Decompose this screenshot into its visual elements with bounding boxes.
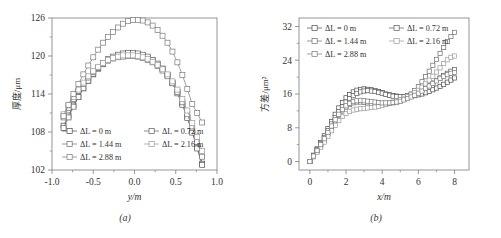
legend-item[interactable]: ΔL = 2.88 m <box>62 153 122 162</box>
x-tick-label: -0.5 <box>86 177 101 187</box>
y-axis-title: 方差/μm² <box>259 76 270 111</box>
legend-item[interactable]: ΔL = 0 m <box>307 24 357 33</box>
y-tick-label: 32 <box>283 22 293 32</box>
caption-a: (a) <box>0 212 250 223</box>
series-3 <box>308 54 457 164</box>
y-tick-label: 8 <box>287 123 292 133</box>
legend-label: ΔL = 0.72 m <box>162 127 204 136</box>
y-tick-label: 0 <box>287 157 292 167</box>
x-tick-label: 1.0 <box>211 177 223 187</box>
legend-label: ΔL = 2.16 m <box>407 37 449 46</box>
legend-label: ΔL = 0 m <box>80 127 112 136</box>
legend-item[interactable]: ΔL = 0.72 m <box>144 127 204 136</box>
panel-a: -1.0-0.50.00.51.0102108114120126y/m厚度/μm… <box>0 0 250 238</box>
x-axis-title: y/m <box>127 192 142 202</box>
y-axis-title: 厚度/μm <box>11 78 22 110</box>
y-tick-label: 108 <box>31 127 46 137</box>
legend-label: ΔL = 0 m <box>325 24 357 33</box>
y-tick-label: 102 <box>31 165 46 175</box>
legend: ΔL = 0 mΔL = 0.72 mΔL = 1.44 mΔL = 2.16 … <box>307 24 449 59</box>
chart-b-svg: 0246808162432x/m方差/μm²ΔL = 0 mΔL = 0.72 … <box>251 0 501 238</box>
x-tick-label: 0.5 <box>170 177 182 187</box>
legend-label: ΔL = 2.16 m <box>162 140 204 149</box>
legend-label: ΔL = 2.88 m <box>80 153 122 162</box>
x-tick-label: 4 <box>380 177 385 187</box>
x-tick-label: 2 <box>344 177 349 187</box>
y-tick-label: 16 <box>283 89 293 99</box>
y-tick-label: 120 <box>31 51 46 61</box>
chart-a-svg: -1.0-0.50.00.51.0102108114120126y/m厚度/μm… <box>0 0 250 238</box>
y-tick-label: 114 <box>31 89 45 99</box>
series-1 <box>61 50 205 167</box>
legend-item[interactable]: ΔL = 2.16 m <box>144 140 204 149</box>
legend: ΔL = 0 mΔL = 0.72 mΔL = 1.44 mΔL = 2.16 … <box>62 127 204 162</box>
series-0 <box>308 76 457 164</box>
x-tick-label: -1.0 <box>44 177 59 187</box>
y-tick-label: 126 <box>31 13 46 23</box>
figure-container: -1.0-0.50.00.51.0102108114120126y/m厚度/μm… <box>0 0 501 238</box>
x-axis-title: x/m <box>376 192 391 202</box>
x-tick-label: 6 <box>416 177 421 187</box>
legend-item[interactable]: ΔL = 1.44 m <box>307 37 367 46</box>
panel-b: 0246808162432x/m方差/μm²ΔL = 0 mΔL = 0.72 … <box>251 0 501 238</box>
legend-label: ΔL = 2.88 m <box>325 50 367 59</box>
x-tick-label: 0.0 <box>129 177 141 187</box>
legend-item[interactable]: ΔL = 0.72 m <box>389 24 449 33</box>
x-tick-label: 0 <box>307 177 312 187</box>
series-4 <box>61 17 205 125</box>
legend-item[interactable]: ΔL = 2.16 m <box>389 37 449 46</box>
legend-label: ΔL = 1.44 m <box>325 37 367 46</box>
y-tick-label: 24 <box>283 56 293 66</box>
legend-item[interactable]: ΔL = 1.44 m <box>62 140 122 149</box>
series-4 <box>308 70 457 163</box>
x-tick-label: 8 <box>452 177 457 187</box>
legend-label: ΔL = 1.44 m <box>80 140 122 149</box>
legend-item[interactable]: ΔL = 0 m <box>62 127 112 136</box>
legend-label: ΔL = 0.72 m <box>407 24 449 33</box>
legend-item[interactable]: ΔL = 2.88 m <box>307 50 367 59</box>
caption-b: (b) <box>251 212 501 223</box>
